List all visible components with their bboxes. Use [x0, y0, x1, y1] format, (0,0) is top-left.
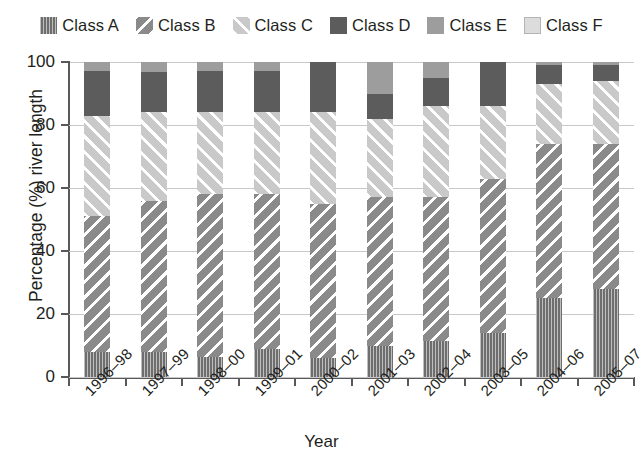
bar-segment-b[interactable] — [536, 144, 562, 298]
bar-segment-e[interactable] — [84, 62, 110, 71]
bar-segment-b[interactable] — [197, 194, 223, 356]
x-axis-tick-mark — [351, 379, 353, 386]
y-axis-tick-label: 20 — [0, 305, 55, 322]
bar-segment-d[interactable] — [593, 65, 619, 81]
y-axis-tick-mark — [61, 61, 68, 63]
x-axis-title: Year — [0, 432, 643, 452]
plot-area — [69, 62, 634, 377]
x-axis-tick-mark — [464, 379, 466, 386]
bar-segment-d[interactable] — [480, 62, 506, 106]
x-axis-tick-mark — [238, 379, 240, 386]
bar-segment-c[interactable] — [254, 112, 280, 194]
y-axis-tick-label: 0 — [0, 368, 55, 385]
bar-segment-b[interactable] — [310, 204, 336, 358]
stacked-bar[interactable] — [141, 62, 167, 377]
bar-segment-d[interactable] — [141, 72, 167, 113]
bar-segment-d[interactable] — [367, 94, 393, 119]
bar-segment-c[interactable] — [141, 112, 167, 200]
bar-segment-e[interactable] — [367, 62, 393, 94]
y-axis-tick-label: 80 — [0, 116, 55, 133]
y-axis-tick-mark — [61, 124, 68, 126]
bar-segment-d[interactable] — [197, 71, 223, 112]
bar-segment-c[interactable] — [593, 81, 619, 144]
y-axis-tick-label: 40 — [0, 242, 55, 259]
y-axis-tick-mark — [61, 187, 68, 189]
stacked-bar[interactable] — [310, 62, 336, 377]
bar-segment-d[interactable] — [310, 62, 336, 112]
bar-segment-b[interactable] — [141, 201, 167, 352]
y-axis-tick-mark — [61, 376, 68, 378]
bar-segment-c[interactable] — [480, 106, 506, 178]
bar-segment-e[interactable] — [423, 62, 449, 78]
bar-segment-d[interactable] — [254, 71, 280, 112]
bar-segment-c[interactable] — [197, 112, 223, 194]
x-axis-tick-mark — [577, 379, 579, 386]
stacked-bar[interactable] — [254, 62, 280, 377]
x-axis-tick-mark — [125, 379, 127, 386]
plot-wrapper: Percentage (%) river length Year 0204060… — [0, 0, 643, 456]
bar-segment-d[interactable] — [536, 65, 562, 84]
bar-segment-c[interactable] — [310, 112, 336, 203]
bar-segment-e[interactable] — [141, 62, 167, 71]
bar-segment-d[interactable] — [423, 78, 449, 106]
y-axis-tick-label: 60 — [0, 179, 55, 196]
bar-segment-d[interactable] — [84, 71, 110, 115]
bar-segment-b[interactable] — [84, 216, 110, 351]
bar-segment-b[interactable] — [423, 197, 449, 340]
stacked-bar[interactable] — [423, 62, 449, 377]
stacked-bar[interactable] — [480, 62, 506, 377]
x-axis-tick-mark — [520, 379, 522, 386]
y-axis-tick-label: 100 — [0, 53, 55, 70]
x-axis-tick-mark — [181, 379, 183, 386]
y-axis-tick-mark — [61, 250, 68, 252]
bar-segment-c[interactable] — [367, 119, 393, 198]
bar-segment-b[interactable] — [480, 179, 506, 333]
bar-segment-e[interactable] — [254, 62, 280, 71]
bar-segment-b[interactable] — [254, 194, 280, 348]
river-quality-stacked-bar-chart: Class AClass BClass CClass DClass EClass… — [0, 0, 643, 456]
stacked-bar[interactable] — [197, 62, 223, 377]
bar-segment-e[interactable] — [197, 62, 223, 71]
stacked-bar[interactable] — [536, 62, 562, 377]
x-axis-tick-mark — [68, 379, 70, 386]
bar-segment-b[interactable] — [593, 144, 619, 289]
x-axis-tick-mark — [407, 379, 409, 386]
stacked-bar[interactable] — [593, 62, 619, 377]
stacked-bar[interactable] — [367, 62, 393, 377]
bar-segment-b[interactable] — [367, 197, 393, 345]
x-axis-tick-mark — [294, 379, 296, 386]
stacked-bar[interactable] — [84, 62, 110, 377]
x-axis-tick-mark — [633, 379, 635, 386]
bar-segment-c[interactable] — [84, 116, 110, 217]
bar-segment-c[interactable] — [423, 106, 449, 197]
y-axis-tick-mark — [61, 313, 68, 315]
bar-segment-c[interactable] — [536, 84, 562, 144]
